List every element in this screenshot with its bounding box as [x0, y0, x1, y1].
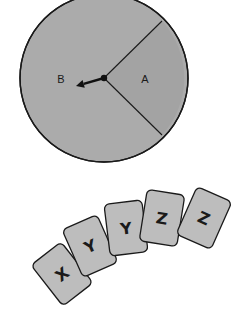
sector-label-b: B — [57, 73, 64, 85]
pointer-pivot — [101, 75, 107, 81]
sector-label-a: A — [141, 73, 149, 85]
card-z-4: Z — [139, 189, 185, 246]
letter-cards: XYYZZ — [31, 187, 232, 307]
card-z-5: Z — [176, 187, 232, 250]
spinner: AB — [20, 0, 188, 162]
spinner-and-cards-diagram: AB XYYZZ — [0, 0, 246, 310]
